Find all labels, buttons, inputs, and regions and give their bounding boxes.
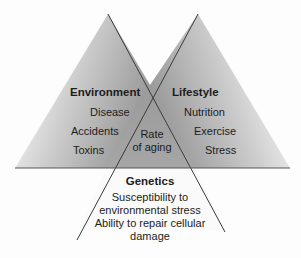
lifestyle-title: Lifestyle	[172, 86, 219, 99]
aging-factors-diagram: Environment Disease Accidents Toxins Lif…	[0, 0, 301, 258]
genetics-title: Genetics	[110, 175, 190, 188]
environment-item-toxins: Toxins	[73, 144, 104, 157]
genetics-line-2: environmental stress	[90, 204, 210, 217]
environment-title: Environment	[70, 86, 140, 99]
environment-item-accidents: Accidents	[71, 125, 119, 138]
environment-item-disease: Disease	[90, 106, 130, 119]
center-label-line2: of aging	[126, 141, 178, 154]
lifestyle-item-stress: Stress	[205, 144, 236, 157]
center-label-line1: Rate	[130, 128, 174, 141]
lifestyle-item-exercise: Exercise	[194, 125, 236, 138]
genetics-line-3: Ability to repair cellular	[85, 217, 215, 230]
lifestyle-item-nutrition: Nutrition	[184, 106, 225, 119]
genetics-line-1: Susceptibility to	[90, 191, 210, 204]
genetics-line-4: damage	[110, 230, 190, 243]
